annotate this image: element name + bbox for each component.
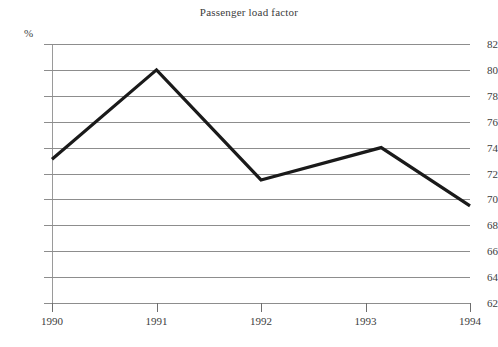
series-layer — [0, 0, 498, 347]
chart-container: Passenger load factor % 8280787674727068… — [0, 0, 498, 347]
passenger-load-factor-line — [52, 70, 470, 206]
